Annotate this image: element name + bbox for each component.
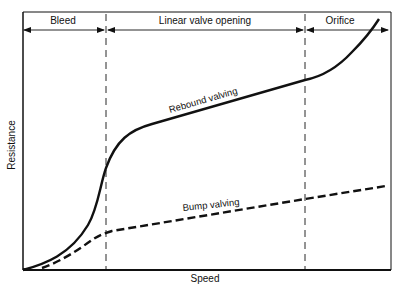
rebound-valving-curve [23, 19, 379, 270]
region-label-bleed: Bleed [50, 15, 76, 26]
y-axis-label: Resistance [6, 120, 17, 170]
region-label-orifice: Orifice [326, 15, 355, 26]
x-axis-label: Speed [191, 273, 220, 284]
bump-valving-label: Bump valving [182, 196, 240, 213]
chart: Bleed Linear valve opening Orifice Rebou… [0, 0, 399, 287]
region-label-linear: Linear valve opening [159, 15, 251, 26]
